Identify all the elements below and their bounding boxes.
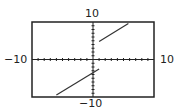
- plot-area: [0, 0, 177, 111]
- series-line-upper-piece: [99, 24, 128, 42]
